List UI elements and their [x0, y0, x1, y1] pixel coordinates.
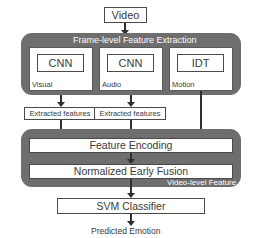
- node-cnn-audio-label: CNN: [119, 58, 143, 69]
- node-extracted-features-audio: Extracted features: [94, 107, 166, 120]
- node-video: Video: [104, 7, 147, 23]
- node-feature-encoding: Feature Encoding: [29, 138, 233, 153]
- node-predicted-emotion: Predicted Emotion: [91, 227, 160, 236]
- node-idt-motion: IDT: [177, 54, 224, 72]
- card-audio-label: Audio: [102, 81, 121, 89]
- card-visual-label: Visual: [32, 81, 52, 89]
- node-idt-motion-label: IDT: [192, 58, 210, 69]
- panel-frame-level-title: Frame-level Feature Extraction: [73, 36, 197, 45]
- card-motion-label: Motion: [172, 81, 195, 89]
- node-cnn-audio: CNN: [107, 54, 154, 72]
- node-feature-encoding-label: Feature Encoding: [90, 140, 173, 151]
- node-cnn-visual-label: CNN: [49, 58, 73, 69]
- pipeline-diagram: Video Frame-level Feature Extraction CNN…: [0, 0, 262, 238]
- node-svm-classifier: SVM Classifier: [57, 198, 205, 214]
- node-normalized-early-fusion-label: Normalized Early Fusion: [74, 166, 188, 177]
- panel-video-level-title: Video-level Feature: [167, 179, 236, 187]
- node-extracted-features-audio-label: Extracted features: [100, 110, 161, 118]
- node-extracted-features-visual-label: Extracted features: [30, 110, 91, 118]
- node-normalized-early-fusion: Normalized Early Fusion: [29, 164, 233, 179]
- node-cnn-visual: CNN: [37, 54, 84, 72]
- node-extracted-features-visual: Extracted features: [24, 107, 96, 120]
- node-svm-classifier-label: SVM Classifier: [97, 201, 166, 212]
- node-video-label: Video: [112, 10, 140, 21]
